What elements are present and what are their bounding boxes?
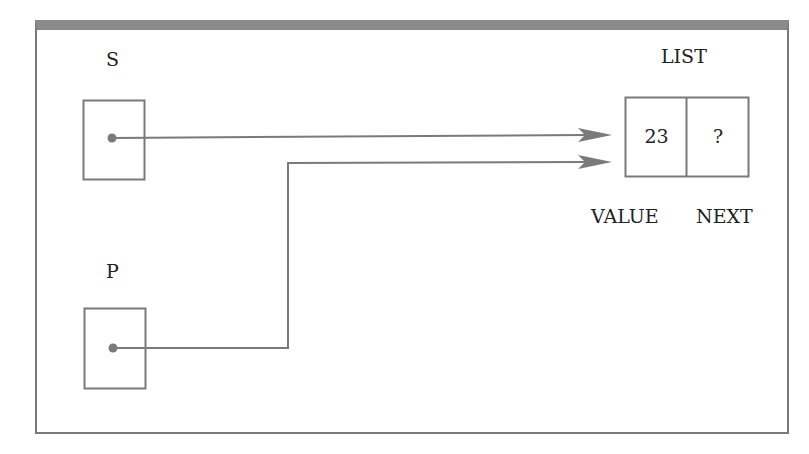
node-value-cell: 23 xyxy=(627,127,686,146)
next-field-label: NEXT xyxy=(696,207,753,226)
list-label: LIST xyxy=(661,47,707,66)
pointer-line-s xyxy=(112,135,585,138)
pointer-line-p xyxy=(113,162,585,348)
value-field-label: VALUE xyxy=(591,207,659,226)
node-next-cell: ? xyxy=(688,127,748,146)
variable-p-label: P xyxy=(106,262,119,281)
variable-s-label: S xyxy=(106,50,119,69)
pointer-wires xyxy=(0,0,809,454)
